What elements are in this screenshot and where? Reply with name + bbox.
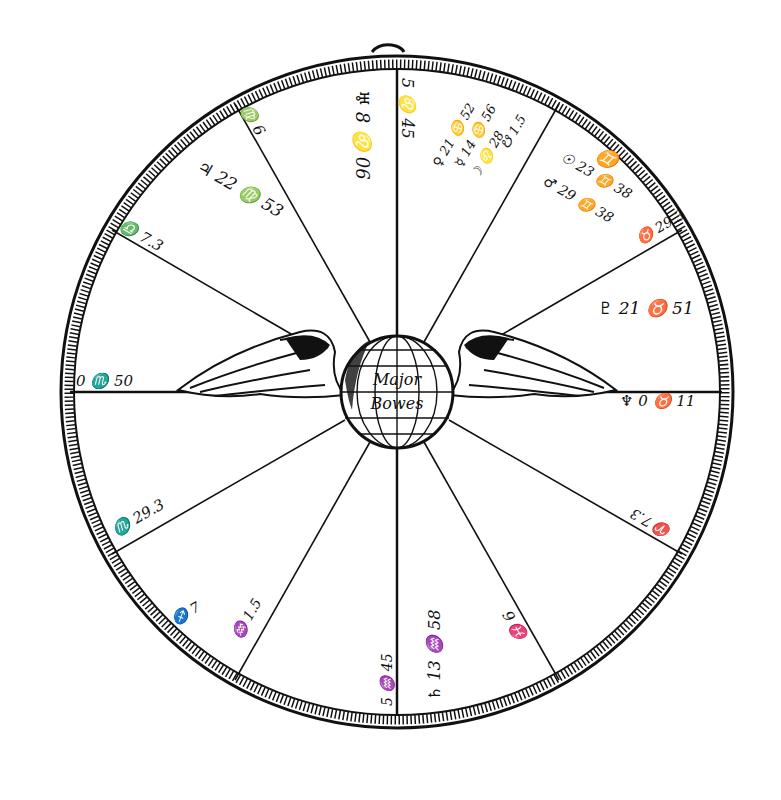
ascendant-label: 0 ♏ 50 bbox=[76, 372, 134, 390]
right-wing-icon bbox=[449, 331, 616, 398]
astrological-chart: Major Bowes 5 ♌ 45 ♍ 6 ♎ 7.3 0 ♏ 50 ♏ 29… bbox=[0, 0, 781, 800]
ring-clasp bbox=[372, 45, 404, 52]
cusp-4b-label: 5 ♒ 45 bbox=[379, 653, 396, 706]
pluto-label: ♇ 21 ♉ 51 bbox=[598, 298, 694, 318]
center-label-line2: Bowes bbox=[370, 394, 424, 413]
cusp-5-label: ♓ 6 bbox=[499, 607, 531, 645]
cusp-10-label: 5 ♌ 45 bbox=[398, 78, 417, 139]
cusp-2-label: ♏ 29.3 bbox=[109, 495, 168, 539]
cusp-11-label: ♍ 6 bbox=[237, 101, 269, 139]
neptune-label: ♆ 0 ♉ 11 bbox=[620, 392, 695, 410]
saturn-label: ♄ 13 ♒ 58 bbox=[425, 610, 444, 700]
left-wing-icon bbox=[178, 331, 345, 398]
cusp-8-label: ♉ 29.3 bbox=[634, 206, 688, 247]
dragon-tail-label: ☋ 1.5 bbox=[498, 112, 529, 151]
cusp-12-label: ♎ 7.3 bbox=[116, 216, 166, 255]
globe-icon bbox=[341, 336, 453, 448]
center-label-line1: Major bbox=[372, 370, 423, 389]
uranus-label: ♅ 8 ♌ 06 bbox=[352, 90, 373, 180]
jupiter-label: ♃ 22 ♍ 53 bbox=[194, 156, 287, 221]
cusp-3-label: ♐ 7 bbox=[169, 599, 204, 629]
